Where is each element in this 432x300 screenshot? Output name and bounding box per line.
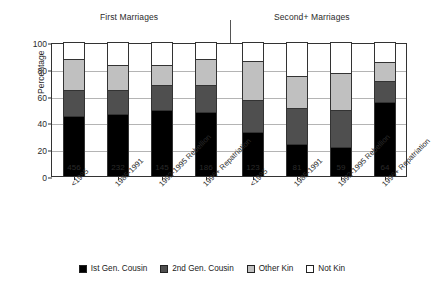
legend-swatch-icon — [247, 265, 255, 273]
bar-segment-other-kin — [330, 73, 352, 111]
y-tick-mark — [48, 178, 52, 179]
legend-item[interactable]: 2nd Gen. Cousin — [160, 264, 233, 273]
gridline — [52, 71, 406, 72]
bar-segment-other-kin — [151, 65, 173, 85]
group-title-second-marriages: Second+ Marriages — [274, 12, 350, 22]
legend-label: Not Kin — [318, 264, 345, 273]
y-tick-label: 40 — [38, 119, 47, 129]
bar-segment-other-kin — [286, 76, 308, 108]
gridline — [52, 98, 406, 99]
bar-segment-other-kin — [242, 61, 264, 100]
y-tick-label: 100 — [33, 39, 47, 49]
legend-label: Other Kin — [259, 264, 294, 273]
bar-segment-second-gen — [63, 90, 85, 115]
bar-segment-second-gen — [242, 100, 264, 132]
bar-segment-other-kin — [63, 59, 85, 90]
legend-item[interactable]: Ist Gen. Cousin — [79, 264, 147, 273]
bar-segment-second-gen — [195, 85, 217, 112]
y-tick-label: 80 — [38, 66, 47, 76]
bar-sample-size-label: 64 — [381, 163, 390, 172]
bar-segment-second-gen — [286, 108, 308, 144]
bar-segment-not-kin — [151, 42, 173, 65]
bar-sample-size-label: 81 — [293, 163, 302, 172]
legend-swatch-icon — [79, 265, 87, 273]
y-tick-label: 20 — [38, 146, 47, 156]
y-tick-label: 0 — [42, 173, 47, 183]
y-tick-mark — [48, 124, 52, 125]
legend-item[interactable]: Other Kin — [247, 264, 294, 273]
bar-segment-not-kin — [63, 42, 85, 59]
group-title-first-marriages: First Marriages — [100, 12, 158, 22]
legend-swatch-icon — [160, 265, 168, 273]
y-tick-mark — [48, 44, 52, 45]
bar-segment-other-kin — [107, 65, 129, 90]
bar-sample-size-label: 59 — [337, 163, 346, 172]
bar-segment-second-gen — [151, 85, 173, 110]
bar-segment-not-kin — [330, 42, 352, 73]
y-tick-mark — [48, 70, 52, 71]
bar-segment-second-gen — [374, 81, 396, 102]
bar-segment-not-kin — [374, 42, 396, 62]
bar-segment-second-gen — [107, 90, 129, 114]
y-tick-mark — [48, 97, 52, 98]
bar-segment-not-kin — [286, 42, 308, 76]
legend-label: 2nd Gen. Cousin — [172, 264, 233, 273]
bar-segment-other-kin — [374, 62, 396, 81]
bar-segment-not-kin — [242, 42, 264, 61]
chart-legend: Ist Gen. Cousin2nd Gen. CousinOther KinN… — [0, 264, 424, 273]
gridline — [52, 124, 406, 125]
y-tick-label: 60 — [38, 93, 47, 103]
bar-segment-second-gen — [330, 110, 352, 146]
bar-segment-not-kin — [195, 42, 217, 59]
y-tick-mark — [48, 151, 52, 152]
legend-label: Ist Gen. Cousin — [91, 264, 147, 273]
legend-swatch-icon — [306, 265, 314, 273]
legend-item[interactable]: Not Kin — [306, 264, 345, 273]
bar-segment-other-kin — [195, 59, 217, 84]
bar-segment-not-kin — [107, 42, 129, 65]
